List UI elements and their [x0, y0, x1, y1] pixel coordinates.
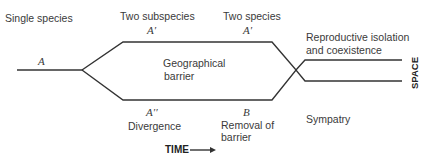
- label-two-species: Two species: [223, 10, 281, 22]
- symbol-a: A: [38, 55, 45, 67]
- symbol-a-double-prime: A′′: [146, 106, 158, 118]
- lineage-lower-branch: [82, 70, 402, 100]
- label-geographical-barrier-1: Geographical: [163, 57, 225, 69]
- symbol-b: B: [243, 106, 250, 118]
- label-sympatry: Sympatry: [306, 113, 350, 125]
- axis-label-time: TIME: [165, 144, 189, 156]
- label-single-species: Single species: [5, 12, 73, 24]
- axis-label-space: SPACE: [407, 58, 421, 88]
- label-divergence: Divergence: [128, 120, 181, 132]
- time-arrow-head: [210, 147, 216, 153]
- symbol-a-prime-subspecies: A′: [147, 24, 156, 36]
- speciation-diagram-lines: [0, 0, 430, 165]
- label-removal-of-barrier-1: Removal of: [221, 119, 274, 131]
- label-reproductive-isolation-1: Reproductive isolation: [306, 31, 409, 43]
- label-removal-of-barrier-2: barrier: [221, 131, 251, 143]
- label-two-subspecies: Two subspecies: [120, 10, 195, 22]
- symbol-a-prime-species: A′: [243, 24, 252, 36]
- label-reproductive-isolation-2: and coexistence: [306, 44, 382, 56]
- label-geographical-barrier-2: barrier: [164, 70, 194, 82]
